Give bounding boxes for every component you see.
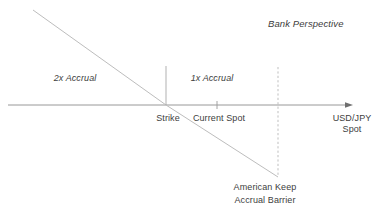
label-1x-accrual: 1x Accrual: [191, 73, 234, 84]
x-axis-label-line2: Spot: [322, 124, 382, 135]
payoff-diagram: Bank Perspective 2x Accrual 1x Accrual S…: [0, 0, 382, 216]
diagram-canvas: [0, 0, 382, 216]
x-axis-label-line1: USD/JPY: [322, 113, 382, 124]
chart-title: Bank Perspective: [268, 18, 344, 29]
label-2x-accrual: 2x Accrual: [54, 73, 97, 84]
axis-tick-label-current-spot: Current Spot: [193, 113, 245, 124]
x-axis-arrow-icon: [345, 102, 353, 108]
payoff-line: [33, 10, 278, 177]
axis-tick-label-strike: Strike: [156, 113, 180, 124]
barrier-label-line1: American Keep: [210, 181, 320, 194]
barrier-label-line2: Accrual Barrier: [210, 194, 320, 207]
x-axis-label: USD/JPY Spot: [322, 113, 382, 135]
barrier-label: American Keep Accrual Barrier: [210, 181, 320, 207]
